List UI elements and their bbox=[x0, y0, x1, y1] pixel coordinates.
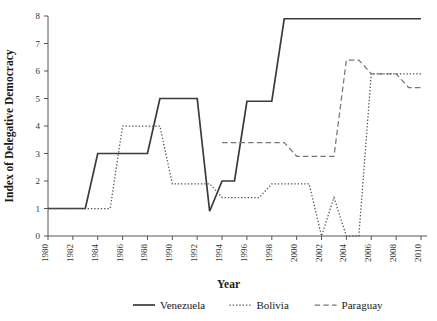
x-tick-label: 1980 bbox=[40, 244, 50, 263]
x-tick-label: 1996 bbox=[239, 244, 249, 262]
delegative-democracy-line-chart: 0123456781980198219841986198819901992199… bbox=[0, 0, 437, 321]
x-tick-label: 1988 bbox=[139, 244, 149, 263]
y-tick-label: 5 bbox=[36, 94, 41, 104]
y-tick-label: 3 bbox=[36, 149, 41, 159]
y-tick-label: 2 bbox=[36, 176, 41, 186]
x-tick-label: 1994 bbox=[214, 244, 224, 263]
x-axis-title: Year bbox=[217, 278, 240, 290]
series-line-venezuela bbox=[48, 19, 421, 212]
x-tick-label: 2010 bbox=[413, 244, 423, 263]
series-line-bolivia bbox=[48, 74, 421, 236]
chart-canvas: 0123456781980198219841986198819901992199… bbox=[0, 0, 437, 321]
y-tick-label: 7 bbox=[36, 39, 41, 49]
legend-label-venezuela: Venezuela bbox=[160, 299, 205, 311]
x-tick-label: 1982 bbox=[65, 244, 75, 262]
series-line-paraguay bbox=[222, 60, 421, 156]
x-tick-label: 1986 bbox=[115, 244, 125, 263]
x-tick-label: 1990 bbox=[164, 244, 174, 263]
y-tick-label: 4 bbox=[36, 121, 41, 131]
legend-label-paraguay: Paraguay bbox=[342, 299, 383, 311]
y-axis-title: Index of Delegative Democracy bbox=[3, 49, 16, 202]
x-tick-label: 1984 bbox=[90, 244, 100, 263]
x-tick-label: 2008 bbox=[388, 244, 398, 263]
x-tick-label: 2000 bbox=[289, 244, 299, 263]
x-tick-label: 1992 bbox=[189, 244, 199, 262]
y-tick-label: 6 bbox=[36, 66, 41, 76]
y-tick-label: 0 bbox=[36, 231, 41, 241]
x-tick-label: 2002 bbox=[314, 244, 324, 262]
x-tick-label: 2004 bbox=[338, 244, 348, 263]
legend-label-bolivia: Bolivia bbox=[256, 299, 289, 311]
x-tick-label: 2006 bbox=[363, 244, 373, 263]
y-tick-label: 8 bbox=[36, 11, 41, 21]
x-tick-label: 1998 bbox=[264, 244, 274, 263]
y-tick-label: 1 bbox=[36, 204, 41, 214]
